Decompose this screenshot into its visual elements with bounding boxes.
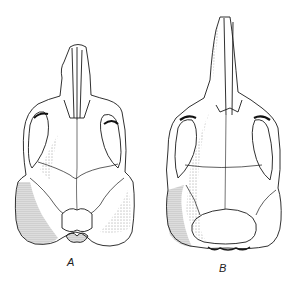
panel-label-a: A: [67, 256, 74, 268]
skull-b: [166, 17, 281, 250]
panel-label-b: B: [219, 262, 226, 274]
skull-figure: [0, 0, 298, 285]
skull-a: [15, 45, 134, 247]
